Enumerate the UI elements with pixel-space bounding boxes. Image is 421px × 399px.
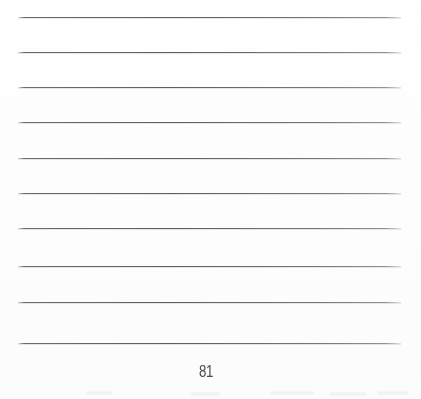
ruled-line-3	[18, 87, 401, 88]
ruled-lines-group	[0, 0, 421, 399]
ruled-line-8	[18, 266, 401, 267]
ruled-line-4	[18, 122, 401, 123]
ruled-line-9	[18, 302, 401, 303]
ruled-line-5	[18, 158, 401, 159]
ruled-line-2	[18, 52, 401, 53]
ruled-line-10	[18, 343, 401, 344]
page-number: 81	[175, 363, 237, 380]
ruled-line-1	[18, 17, 401, 18]
ruled-line-6	[18, 193, 401, 194]
scanned-page: 81	[0, 0, 421, 399]
ruled-line-7	[18, 228, 401, 229]
